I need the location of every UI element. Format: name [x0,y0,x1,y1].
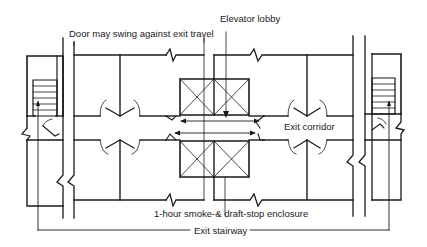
right-stair [365,54,404,200]
label-enclosure: 1-hour smoke-& draft-stop enclosure [154,209,308,219]
floor-plan-diagram: Door may swing against exit travel Eleva… [0,0,427,247]
right-shaft-wall [347,36,365,216]
left-stair [22,56,63,206]
left-rooms [74,49,204,206]
left-shaft-wall [57,38,74,218]
label-exit-stairway: Exit stairway [194,226,247,236]
label-exit-corridor: Exit corridor [284,122,335,132]
label-door-swing: Door may swing against exit travel [69,29,214,39]
elevator-lobby [166,32,264,215]
label-elevator-lobby: Elevator lobby [220,14,280,24]
